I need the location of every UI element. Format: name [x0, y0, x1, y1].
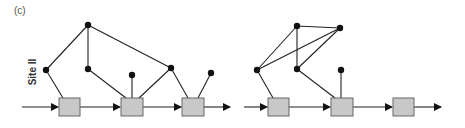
network-diagram — [0, 0, 465, 128]
left-nodes — [43, 22, 214, 78]
right-edges — [257, 26, 341, 98]
node-left — [43, 67, 49, 73]
node-left — [254, 67, 260, 73]
right-box-2 — [331, 98, 353, 116]
node-above-box3 — [208, 70, 214, 76]
node-right — [168, 65, 174, 71]
node-above-box2 — [129, 72, 135, 78]
right-diagram — [244, 23, 441, 116]
right-nodes — [254, 23, 344, 73]
left-box-2 — [121, 98, 143, 116]
node-above-box2 — [338, 67, 344, 73]
left-edges — [46, 25, 211, 98]
node-top-a — [294, 23, 300, 29]
right-box-3 — [393, 98, 414, 116]
left-box-1 — [59, 98, 80, 116]
right-box-1 — [268, 98, 289, 116]
left-diagram — [22, 22, 230, 116]
node-top — [85, 22, 91, 28]
node-mid — [294, 66, 300, 72]
node-top-b — [337, 25, 343, 31]
node-mid — [85, 66, 91, 72]
left-box-3 — [182, 98, 204, 116]
